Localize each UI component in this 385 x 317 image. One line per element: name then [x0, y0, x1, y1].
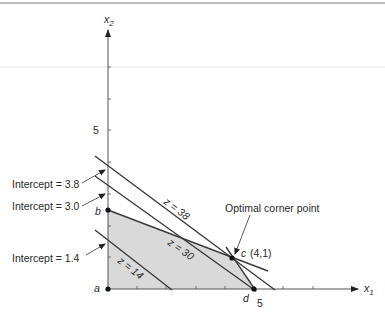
arrow-intercept-30	[82, 194, 105, 206]
arrow-intercept-14	[86, 244, 105, 255]
point-b-label: b	[95, 205, 101, 217]
point-d-label: d	[243, 292, 250, 304]
point-a-label: a	[94, 282, 100, 294]
point-c	[229, 255, 234, 260]
intercept-30-label: Intercept = 3.0	[12, 200, 80, 212]
intercept-14-label: Intercept = 1.4	[12, 252, 80, 264]
x1-axis-label: x1	[363, 282, 374, 297]
point-c-label: c	[241, 247, 247, 259]
x-tick-5-label: 5	[257, 297, 263, 309]
point-a	[105, 286, 110, 291]
lp-graph: x2 x1 5 5 a b c (4,1) d Intercept = 3.8 …	[0, 0, 385, 317]
y-tick-5-label: 5	[93, 124, 99, 136]
intercept-38-label: Intercept = 3.8	[12, 178, 80, 190]
optimal-corner-label: Optimal corner point	[225, 202, 320, 214]
point-c-coords: (4,1)	[250, 247, 272, 259]
x2-axis-label: x2	[103, 13, 114, 28]
point-b	[105, 207, 110, 212]
point-d	[251, 286, 256, 291]
